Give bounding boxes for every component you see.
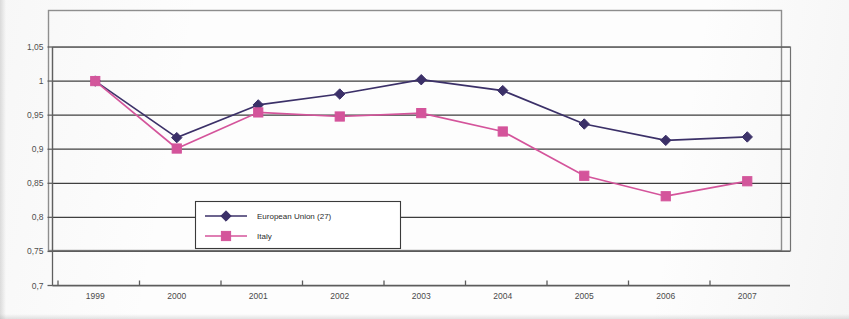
y-axis-tick-label: 0,7: [32, 281, 44, 291]
data-point-marker: [661, 135, 671, 145]
x-axis-tick-label: 2006: [656, 291, 675, 301]
legend-swatch-marker: [221, 231, 230, 240]
data-point-marker: [498, 85, 508, 95]
x-axis-tick-label: 2007: [738, 291, 757, 301]
x-axis-tick-label: 2001: [249, 291, 268, 301]
x-axis: 199920002001200220032004200520062007: [58, 281, 757, 301]
data-point-marker: [172, 144, 181, 153]
data-series-group: [90, 75, 752, 201]
y-axis-tick-label: 1,05: [27, 42, 44, 52]
series-line-2: [95, 81, 747, 196]
data-point-marker: [742, 132, 752, 142]
y-axis-tick-label: 0,75: [27, 246, 44, 256]
y-axis: 1,0510,950,90,850,80,750,7: [27, 42, 790, 291]
data-point-marker: [580, 171, 589, 180]
data-point-marker: [579, 119, 589, 129]
x-axis-tick-label: 2004: [493, 291, 512, 301]
chart-figure: 1,0510,950,90,850,80,750,7 1999200020012…: [0, 0, 849, 319]
y-axis-tick-label: 0,85: [27, 178, 44, 188]
data-point-marker: [335, 112, 344, 121]
data-point-marker: [417, 108, 426, 117]
legend-entry-label: Italy: [257, 232, 272, 241]
y-axis-tick-label: 0,95: [27, 110, 44, 120]
legend-box: [196, 202, 401, 249]
data-point-marker: [335, 89, 345, 99]
x-axis-tick-label: 2003: [412, 291, 431, 301]
chart-legend: European Union (27)Italy: [196, 202, 401, 249]
data-point-marker: [172, 132, 182, 142]
x-axis-tick-label: 2000: [167, 291, 186, 301]
y-axis-tick-label: 1: [39, 76, 44, 86]
data-point-marker: [743, 177, 752, 186]
data-point-marker: [254, 108, 263, 117]
x-axis-tick-label: 2002: [330, 291, 349, 301]
data-point-marker: [661, 192, 670, 201]
data-point-marker: [91, 76, 100, 85]
y-axis-tick-label: 0,9: [32, 144, 44, 154]
x-axis-tick-label: 2005: [575, 291, 594, 301]
data-point-marker: [416, 75, 426, 85]
line-chart-canvas: 1,0510,950,90,850,80,750,7 1999200020012…: [0, 0, 849, 319]
x-axis-tick-label: 1999: [86, 291, 105, 301]
y-axis-tick-label: 0,8: [32, 212, 44, 222]
data-point-marker: [498, 127, 507, 136]
legend-entry-label: European Union (27): [257, 212, 332, 221]
